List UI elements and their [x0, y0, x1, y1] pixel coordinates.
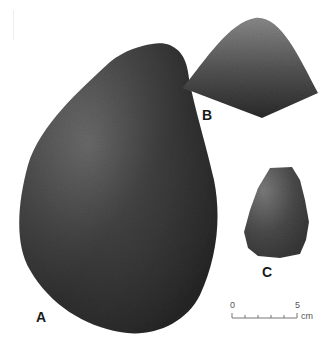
specimen-c-label: C — [262, 265, 272, 279]
specimen-b — [183, 18, 318, 118]
scale-start-label: 0 — [230, 301, 235, 310]
specimen-a-label: A — [36, 310, 46, 324]
scale-bar — [232, 313, 297, 318]
scale-end-label: 5 — [295, 301, 300, 310]
artifact-plate — [0, 0, 333, 351]
specimen-b-label: B — [202, 108, 212, 122]
specimen-c — [244, 167, 309, 258]
scale-unit-label: cm — [301, 312, 313, 321]
